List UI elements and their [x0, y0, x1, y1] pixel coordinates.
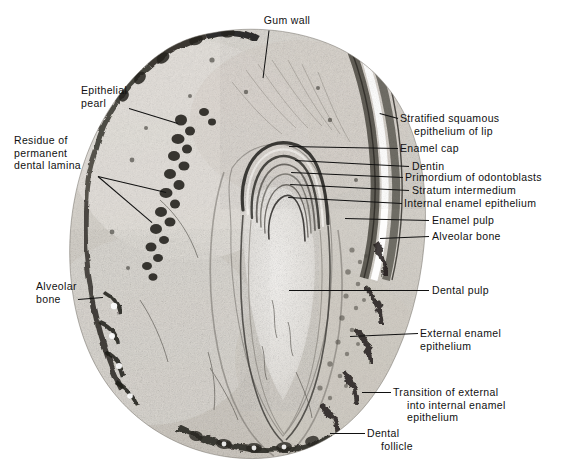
- leader-line-dental-follicle: [330, 433, 365, 434]
- leader-line-gum-wall: [263, 30, 270, 78]
- label-line: bone: [36, 293, 116, 306]
- label-line: follicle: [367, 440, 487, 453]
- label-dental-follicle: Dentalfollicle: [367, 427, 487, 452]
- alveolar-bone-right-art: [322, 242, 386, 432]
- leader-line-stratum-intermedium: [290, 184, 409, 191]
- dental-lamina-chain: [142, 108, 216, 281]
- figure-plate: Gum wallEpithelialpearlResidue ofpermane…: [0, 0, 571, 475]
- label-internal-enamel-epithelium: Internal enamel epithelium: [404, 197, 571, 210]
- label-epithelial-pearl: Epithelialpearl: [81, 84, 161, 109]
- label-line: External enamel: [420, 327, 570, 340]
- label-line: permanent: [14, 147, 119, 160]
- leader-line-epithelial-pearl: [129, 108, 178, 124]
- leader-line-external-enamel-epithelium: [350, 333, 418, 337]
- leader-line-alveolar-bone-right: [380, 236, 429, 239]
- leader-line-dental-pulp: [289, 290, 429, 291]
- label-external-enamel-epithelium: External enamelepithelium: [420, 327, 570, 352]
- label-line: Internal enamel epithelium: [404, 197, 571, 210]
- label-line: epithelium of lip: [400, 125, 570, 138]
- label-alveolar-bone-right: Alveolar bone: [432, 230, 571, 243]
- label-line: Enamel cap: [400, 142, 570, 155]
- label-line: Dental: [367, 427, 487, 440]
- label-line: Stratum intermedium: [412, 184, 571, 197]
- leader-line-enamel-pulp: [345, 218, 429, 221]
- label-line: epithelium: [420, 340, 570, 353]
- leader-line-primordium-of-odontoblasts: [291, 172, 403, 178]
- label-primordium-of-odontoblasts: Primordium of odontoblasts: [405, 171, 570, 184]
- label-line: epithelium: [393, 411, 571, 424]
- alveolar-bone-left-art: [100, 292, 138, 406]
- leader-line-internal-enamel-epithelium: [288, 197, 402, 204]
- label-line: Primordium of odontoblasts: [405, 171, 570, 184]
- label-transition-of-external-into-internal-enamel-epithelium: Transition of externalinto internal enam…: [393, 386, 571, 424]
- label-stratum-intermedium: Stratum intermedium: [412, 184, 571, 197]
- leader-line-transition-of-external-into-internal-enamel-epithelium: [362, 392, 391, 393]
- label-line: Alveolar: [36, 280, 116, 293]
- label-enamel-cap: Enamel cap: [400, 142, 570, 155]
- leader-line-enamel-cap: [289, 146, 398, 149]
- leader-line-dentin: [295, 160, 409, 167]
- leader-line-stratified-squamous-epithelium-of-lip: [380, 113, 398, 119]
- label-line: Epithelial: [81, 84, 161, 97]
- label-line: into internal enamel: [393, 399, 571, 412]
- label-line: Transition of external: [393, 386, 571, 399]
- label-line: Stratified squamous: [400, 112, 570, 125]
- label-line: Dental pulp: [432, 284, 571, 297]
- label-dental-pulp: Dental pulp: [432, 284, 571, 297]
- dental-follicle-art: [178, 428, 336, 450]
- label-enamel-pulp: Enamel pulp: [432, 214, 571, 227]
- label-line: Alveolar bone: [432, 230, 571, 243]
- label-gum-wall: Gum wall: [242, 14, 332, 27]
- label-line: Gum wall: [242, 14, 332, 27]
- label-residue-of-permanent-dental-lamina: Residue ofpermanentdental lamina: [14, 134, 119, 172]
- label-line: pearl: [81, 97, 161, 110]
- label-alveolar-bone-left: Alveolarbone: [36, 280, 116, 305]
- label-line: dental lamina: [14, 159, 119, 172]
- label-line: Enamel pulp: [432, 214, 571, 227]
- label-line: Residue of: [14, 134, 119, 147]
- label-stratified-squamous-epithelium-of-lip: Stratified squamousepithelium of lip: [400, 112, 570, 137]
